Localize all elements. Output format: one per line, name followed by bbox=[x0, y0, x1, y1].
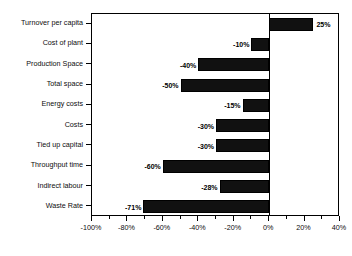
bar bbox=[163, 160, 269, 173]
x-tick-label: -100% bbox=[81, 223, 102, 232]
bar-row: -15% bbox=[92, 95, 338, 115]
bar bbox=[269, 18, 313, 31]
x-tick-minor bbox=[286, 216, 287, 219]
category-label-row: Total space bbox=[0, 74, 86, 94]
bar bbox=[198, 58, 269, 71]
x-tick-label: -60% bbox=[153, 223, 170, 232]
bar-value-label: -40% bbox=[180, 62, 196, 69]
category-label: Turnover per capita bbox=[21, 19, 83, 27]
x-tick-minor bbox=[144, 216, 145, 219]
x-tick-label: 0% bbox=[263, 223, 273, 232]
category-label-row: Throughput time bbox=[0, 155, 86, 175]
category-label: Throughput time bbox=[31, 161, 83, 169]
bar-row: -40% bbox=[92, 55, 338, 75]
bar bbox=[243, 99, 270, 112]
category-label-row: Tied up capital bbox=[0, 135, 86, 155]
bar-value-label: -28% bbox=[201, 184, 217, 191]
bar-row: -10% bbox=[92, 34, 338, 54]
plot-area: 25%-10%-40%-50%-15%-30%-30%-60%-28%-71% bbox=[91, 13, 339, 216]
bar-value-label: -50% bbox=[162, 82, 178, 89]
bar bbox=[181, 79, 270, 92]
bar bbox=[143, 200, 269, 213]
category-label: Energy costs bbox=[41, 100, 83, 108]
x-tick-major bbox=[268, 216, 269, 221]
x-tick-major bbox=[233, 216, 234, 221]
x-tick-minor bbox=[321, 216, 322, 219]
bar-row: -30% bbox=[92, 136, 338, 156]
x-tick-major bbox=[91, 216, 92, 221]
x-tick-major bbox=[339, 216, 340, 221]
category-label: Cost of plant bbox=[43, 39, 83, 47]
bar bbox=[216, 119, 269, 132]
bar bbox=[220, 180, 270, 193]
x-tick-major bbox=[197, 216, 198, 221]
x-tick-minor bbox=[180, 216, 181, 219]
bar-row: -28% bbox=[92, 176, 338, 196]
category-axis: Turnover per capitaCost of plantProducti… bbox=[0, 13, 86, 216]
bar-value-label: -60% bbox=[145, 163, 161, 170]
category-label-row: Waste Rate bbox=[0, 196, 86, 216]
bar-row: -50% bbox=[92, 75, 338, 95]
category-label-row: Production Space bbox=[0, 54, 86, 74]
bar-value-label: -71% bbox=[125, 204, 141, 211]
category-label: Waste Rate bbox=[46, 202, 83, 210]
x-axis-ticks bbox=[91, 216, 339, 222]
category-label-row: Turnover per capita bbox=[0, 13, 86, 33]
x-tick-label: -80% bbox=[118, 223, 135, 232]
bar-value-label: -15% bbox=[224, 102, 240, 109]
bar-row: -30% bbox=[92, 116, 338, 136]
category-label: Total space bbox=[47, 80, 83, 88]
x-tick-label: 20% bbox=[296, 223, 310, 232]
bar bbox=[216, 139, 269, 152]
category-label: Tied up capital bbox=[37, 141, 83, 149]
category-label-row: Cost of plant bbox=[0, 33, 86, 53]
x-tick-major bbox=[126, 216, 127, 221]
x-tick-label: 40% bbox=[332, 223, 346, 232]
bar bbox=[251, 38, 269, 51]
bars-layer: 25%-10%-40%-50%-15%-30%-30%-60%-28%-71% bbox=[92, 14, 338, 215]
category-label: Costs bbox=[65, 121, 83, 129]
category-label: Indirect labour bbox=[37, 182, 83, 190]
category-label-row: Costs bbox=[0, 114, 86, 134]
category-label-row: Indirect labour bbox=[0, 175, 86, 195]
bar-value-label: -30% bbox=[198, 123, 214, 130]
category-label: Production Space bbox=[26, 60, 83, 68]
x-tick-label: -20% bbox=[224, 223, 241, 232]
bar-value-label: 25% bbox=[316, 21, 330, 28]
x-tick-minor bbox=[109, 216, 110, 219]
x-tick-minor bbox=[215, 216, 216, 219]
x-tick-major bbox=[162, 216, 163, 221]
x-tick-major bbox=[304, 216, 305, 221]
category-label-row: Energy costs bbox=[0, 94, 86, 114]
x-axis-labels: -100%-80%-60%-40%-20%0%20%40% bbox=[91, 223, 339, 237]
bar-row: 25% bbox=[92, 14, 338, 34]
bar-value-label: -10% bbox=[233, 41, 249, 48]
x-tick-minor bbox=[250, 216, 251, 219]
bar-row: -71% bbox=[92, 197, 338, 217]
bar-value-label: -30% bbox=[198, 143, 214, 150]
x-tick-label: -40% bbox=[189, 223, 206, 232]
bar-chart: Turnover per capitaCost of plantProducti… bbox=[0, 0, 352, 256]
bar-row: -60% bbox=[92, 156, 338, 176]
